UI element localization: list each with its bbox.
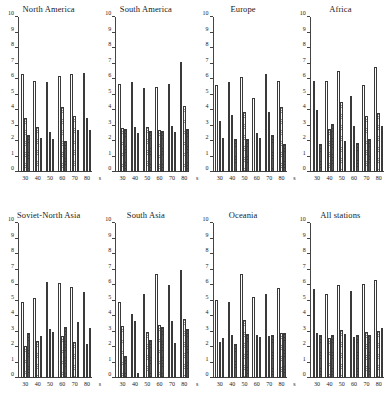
bar-series-3 xyxy=(149,131,152,172)
y-axis-tick xyxy=(307,78,310,79)
y-axis-tick-label: 1 xyxy=(108,149,111,155)
x-axis-tick-label: 50 xyxy=(339,381,345,387)
x-axis-tick-label: 70 xyxy=(266,381,272,387)
y-axis-tick xyxy=(112,63,115,64)
y-axis-tick xyxy=(307,331,310,332)
y-axis-tick xyxy=(112,284,115,285)
y-axis-tick xyxy=(210,346,213,347)
y-axis-tick-label: 0 xyxy=(11,165,14,171)
y-axis-tick-label: 6 xyxy=(11,72,14,78)
y-axis-tick-label: 3 xyxy=(206,324,209,330)
y-axis-tick-label: 8 xyxy=(108,247,111,253)
x-axis-tick-label: 80 xyxy=(84,381,90,387)
x-axis-tick-label: 30 xyxy=(217,175,223,181)
x-axis-tick-label: 40 xyxy=(35,175,41,181)
y-axis-tick-label: 2 xyxy=(206,134,209,140)
y-axis-tick-label: 2 xyxy=(108,340,111,346)
bar-series-3 xyxy=(319,144,322,172)
bar-series-3 xyxy=(124,129,127,172)
bar-group xyxy=(313,17,322,172)
bar-group xyxy=(33,223,42,378)
y-axis-tick xyxy=(307,362,310,363)
bar-group xyxy=(265,17,274,172)
bar-group xyxy=(228,223,237,378)
x-axis-tick-label: 80 xyxy=(84,175,90,181)
y-axis-tick-label: 7 xyxy=(206,56,209,62)
y-axis-tick-label: 10 xyxy=(203,10,209,16)
bar-group xyxy=(143,17,152,172)
bar-group xyxy=(118,17,127,172)
y-axis-tick xyxy=(15,140,18,141)
y-axis-tick-label: 5 xyxy=(303,87,306,93)
bar-series-3 xyxy=(368,139,371,172)
bar-series-3 xyxy=(174,132,177,172)
y-axis-tick xyxy=(112,16,115,17)
bar-series-3 xyxy=(137,133,140,172)
y-axis-tick xyxy=(307,238,310,239)
panel-soviet-north-asia: Soviet-North Asia01234567891030405060708… xyxy=(0,206,97,412)
y-axis-tick xyxy=(210,94,213,95)
y-axis-tick xyxy=(112,125,115,126)
y-axis-tick-label: 8 xyxy=(303,247,306,253)
bar-group xyxy=(21,17,30,172)
x-axis-labels: 304050607080s xyxy=(213,175,287,187)
y-axis-tick xyxy=(112,222,115,223)
bar-series-3 xyxy=(89,328,92,378)
bar-series-3 xyxy=(161,131,164,172)
bar-group xyxy=(337,223,346,378)
bar-series-2 xyxy=(134,321,137,378)
x-axis-tick-label: 60 xyxy=(351,175,357,181)
y-axis-tick-label: 4 xyxy=(206,309,209,315)
plot-area: 012345678910304050607080s xyxy=(213,223,287,378)
multi-panel-bar-chart-figure: North America012345678910304050607080sSo… xyxy=(0,0,389,413)
y-axis-tick xyxy=(210,284,213,285)
x-axis-tick-label: 40 xyxy=(132,381,138,387)
x-axis-labels: 304050607080s xyxy=(310,381,384,393)
x-axis-tick-label: 50 xyxy=(339,175,345,181)
y-axis-tick xyxy=(15,109,18,110)
bar-series-3 xyxy=(319,335,322,378)
y-axis-tick-label: 6 xyxy=(303,278,306,284)
y-axis-tick-label: 6 xyxy=(206,72,209,78)
y-axis-tick xyxy=(307,16,310,17)
y-axis-line xyxy=(310,223,311,378)
bar-group xyxy=(155,223,164,378)
y-axis-tick xyxy=(112,47,115,48)
y-axis-tick-label: 6 xyxy=(108,72,111,78)
bar-group xyxy=(131,223,140,378)
y-axis-tick-label: 6 xyxy=(303,72,306,78)
y-axis-tick xyxy=(210,63,213,64)
y-axis-tick-label: 1 xyxy=(303,355,306,361)
y-axis-tick-label: 7 xyxy=(11,262,14,268)
y-axis-tick-label: 9 xyxy=(11,25,14,31)
bar-group xyxy=(374,17,383,172)
x-axis-tick-label: 30 xyxy=(120,175,126,181)
y-axis-tick xyxy=(15,346,18,347)
y-axis-tick-label: 0 xyxy=(206,371,209,377)
x-axis-tick-label: 40 xyxy=(132,175,138,181)
bar-group xyxy=(58,223,67,378)
panel-title: South America xyxy=(97,4,194,14)
x-axis-tick-label: 60 xyxy=(254,381,260,387)
bar-series-3 xyxy=(259,138,262,172)
bar-series-3 xyxy=(368,335,371,378)
y-axis-tick xyxy=(307,63,310,64)
panel-title: Europe xyxy=(195,4,292,14)
x-axis-tick-label: 30 xyxy=(22,175,28,181)
x-axis-tick-label: 40 xyxy=(229,381,235,387)
y-axis-tick-label: 6 xyxy=(206,278,209,284)
y-axis-tick xyxy=(15,156,18,157)
y-axis-tick-label: 4 xyxy=(303,103,306,109)
x-axis-tick-label: 40 xyxy=(229,175,235,181)
panel-row-top: North America012345678910304050607080sSo… xyxy=(0,0,389,206)
bar-series-3 xyxy=(149,340,152,378)
y-axis-tick xyxy=(112,156,115,157)
y-axis-tick-label: 9 xyxy=(206,231,209,237)
bar-group xyxy=(350,223,359,378)
bar-group xyxy=(277,17,286,172)
panel-title: South Asia xyxy=(97,210,194,220)
x-axis-labels: 304050607080s xyxy=(18,175,92,187)
panel-row-bottom: Soviet-North Asia01234567891030405060708… xyxy=(0,206,389,412)
y-axis-tick xyxy=(210,16,213,17)
y-axis-tick-label: 7 xyxy=(108,56,111,62)
